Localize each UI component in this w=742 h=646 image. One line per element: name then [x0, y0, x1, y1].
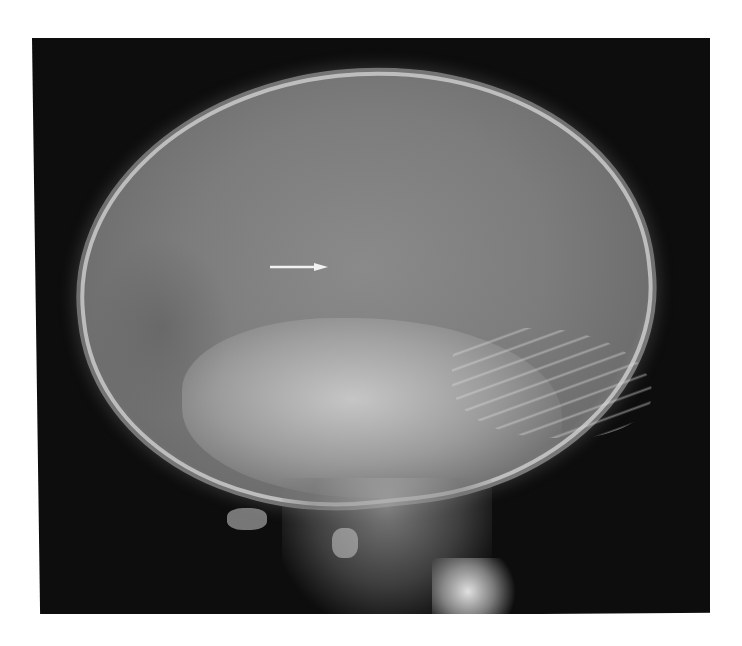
arrow-icon	[270, 263, 328, 271]
skull-cortex-rim	[59, 43, 673, 532]
dentition	[432, 558, 522, 614]
radiograph-film	[32, 38, 710, 614]
vertebra	[227, 508, 267, 530]
vertebra	[332, 528, 358, 558]
